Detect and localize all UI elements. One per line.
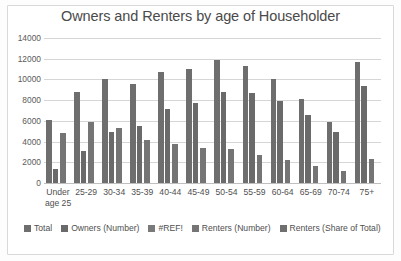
x-tick-label: 60-64 — [269, 186, 297, 220]
bar[interactable] — [333, 132, 339, 183]
bar[interactable] — [305, 115, 311, 183]
legend-swatch-icon — [61, 225, 68, 232]
x-tick-label: 35-39 — [128, 186, 156, 220]
bar-group — [325, 38, 353, 183]
y-tick-label: 10000 — [3, 74, 41, 84]
bar[interactable] — [88, 122, 94, 183]
bar-group — [297, 38, 325, 183]
x-tick-label: 70-74 — [325, 186, 353, 220]
legend-swatch-icon — [148, 225, 155, 232]
bar[interactable] — [158, 72, 164, 183]
legend-item[interactable]: Total — [24, 222, 52, 234]
bar[interactable] — [249, 93, 255, 183]
bar[interactable] — [46, 120, 52, 183]
bar[interactable] — [214, 60, 220, 183]
y-tick-label: 2000 — [3, 157, 41, 167]
x-axis: Under age 2525-2930-3435-3940-4445-4950-… — [44, 186, 381, 220]
bar[interactable] — [200, 148, 206, 183]
legend-item[interactable]: Renters (Share of Total) — [280, 222, 381, 234]
bar[interactable] — [341, 171, 347, 183]
bar-group — [128, 38, 156, 183]
bar-group — [212, 38, 240, 183]
bar-group — [44, 38, 72, 183]
y-tick-label: 4000 — [3, 137, 41, 147]
y-tick-label: 14000 — [3, 33, 41, 43]
x-tick-label: 30-34 — [100, 186, 128, 220]
bar[interactable] — [313, 166, 319, 183]
bar-group — [353, 38, 381, 183]
bar[interactable] — [186, 69, 192, 183]
bar-group — [184, 38, 212, 183]
bar[interactable] — [144, 140, 150, 183]
bar[interactable] — [327, 122, 333, 183]
x-tick-label: 25-29 — [72, 186, 100, 220]
bar[interactable] — [369, 159, 375, 183]
x-tick-label: 45-49 — [184, 186, 212, 220]
legend-label: Total — [34, 222, 52, 234]
legend-item[interactable]: Owners (Number) — [61, 222, 139, 234]
bar[interactable] — [221, 92, 227, 183]
bar[interactable] — [165, 109, 171, 183]
x-tick-label: 75+ — [353, 186, 381, 220]
bar[interactable] — [277, 101, 283, 183]
bar[interactable] — [130, 84, 136, 183]
bar[interactable] — [285, 160, 291, 183]
y-axis: 14000120001000080006000400020000 — [0, 38, 41, 183]
legend-label: Renters (Share of Total) — [290, 222, 381, 234]
chart-title: Owners and Renters by age of Householder — [0, 8, 401, 24]
bar-group — [269, 38, 297, 183]
bar[interactable] — [361, 86, 367, 183]
legend-swatch-icon — [192, 225, 199, 232]
bar[interactable] — [355, 62, 361, 183]
bar[interactable] — [172, 144, 178, 183]
bar[interactable] — [74, 92, 80, 183]
bar-group — [72, 38, 100, 183]
bar[interactable] — [116, 128, 122, 183]
legend-label: #REF! — [158, 222, 182, 234]
legend-item[interactable]: #REF! — [148, 222, 182, 234]
chart-container: Owners and Renters by age of Householder… — [0, 0, 401, 261]
bar[interactable] — [53, 169, 59, 183]
bar[interactable] — [228, 149, 234, 183]
x-tick-label: 50-54 — [212, 186, 240, 220]
bar[interactable] — [193, 103, 199, 183]
bar-group — [156, 38, 184, 183]
bars-layer — [44, 38, 381, 183]
legend-item[interactable]: Renters (Number) — [192, 222, 271, 234]
legend-swatch-icon — [24, 225, 31, 232]
bar[interactable] — [60, 133, 66, 183]
y-tick-label: 6000 — [3, 116, 41, 126]
bar[interactable] — [81, 151, 87, 183]
y-tick-label: 8000 — [3, 95, 41, 105]
bar[interactable] — [271, 79, 277, 183]
legend-label: Owners (Number) — [71, 222, 139, 234]
legend-swatch-icon — [280, 225, 287, 232]
bar-group — [241, 38, 269, 183]
x-tick-label: 40-44 — [156, 186, 184, 220]
bar[interactable] — [299, 99, 305, 183]
bar-group — [100, 38, 128, 183]
gridline — [44, 183, 381, 184]
legend-label: Renters (Number) — [202, 222, 271, 234]
x-tick-label: Under age 25 — [44, 186, 72, 220]
x-tick-label: 65-69 — [297, 186, 325, 220]
plot-area — [44, 38, 381, 183]
chart-legend: TotalOwners (Number)#REF!Renters (Number… — [24, 222, 384, 234]
y-tick-label: 12000 — [3, 54, 41, 64]
bar[interactable] — [243, 66, 249, 183]
bar[interactable] — [109, 132, 115, 183]
bar[interactable] — [257, 155, 263, 183]
bar[interactable] — [102, 79, 108, 183]
bar[interactable] — [137, 126, 143, 183]
x-tick-label: 55-59 — [241, 186, 269, 220]
y-tick-label: 0 — [3, 178, 41, 188]
